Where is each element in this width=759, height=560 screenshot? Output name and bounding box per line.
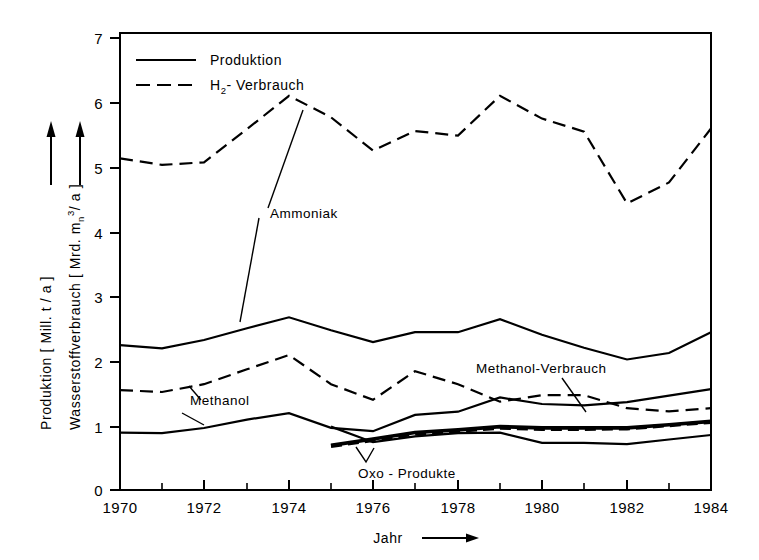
chart-figure: 7 6 5 4 3 2 1 0 <box>0 0 759 560</box>
x-tick-label-1984: 1984 <box>694 499 729 516</box>
y-tick-label-1: 1 <box>94 419 103 436</box>
x-tick-label-1976: 1976 <box>356 499 391 516</box>
chart-svg: 7 6 5 4 3 2 1 0 <box>0 0 759 560</box>
x-tick-label-1970: 1970 <box>103 499 138 516</box>
y-tick-label-6: 6 <box>94 95 103 112</box>
annotation-methanol: Methanol <box>190 393 250 408</box>
x-tick-label-1978: 1978 <box>441 499 476 516</box>
y-axis-title-right-sub: n <box>75 216 86 222</box>
annotation-methanol-verbrauch: Methanol-Verbrauch <box>476 361 607 376</box>
x-tick-label-1982: 1982 <box>610 499 645 516</box>
x-axis-title: Jahr <box>373 530 403 546</box>
legend-h2-rest: - Verbrauch <box>226 77 304 93</box>
chart-figure-root: 7 6 5 4 3 2 1 0 <box>0 0 759 560</box>
y-tick-label-7: 7 <box>94 30 103 47</box>
y-tick-label-3: 3 <box>94 289 103 306</box>
y-tick-label-0: 0 <box>94 482 103 499</box>
annotation-oxo-produkte: Oxo - Produkte <box>358 466 456 481</box>
legend-label-produktion: Produktion <box>210 52 282 68</box>
y-tick-label-4: 4 <box>94 225 103 242</box>
y-axis-title-right-tail: / a ] <box>67 184 83 210</box>
y-tick-label-5: 5 <box>94 160 103 177</box>
x-tick-label-1974: 1974 <box>272 499 307 516</box>
legend-h2-base: H <box>210 77 221 93</box>
x-tick-label-1972: 1972 <box>187 499 222 516</box>
y-tick-label-2: 2 <box>94 354 103 371</box>
annotation-ammoniak: Ammoniak <box>270 206 338 221</box>
y-axis-title-right-base: Wasserstoffverbrauch [ Mrd. m <box>67 222 83 430</box>
y-axis-title-left: Produktion [ Mill. t / a ] <box>38 276 54 430</box>
x-tick-label-1980: 1980 <box>525 499 560 516</box>
